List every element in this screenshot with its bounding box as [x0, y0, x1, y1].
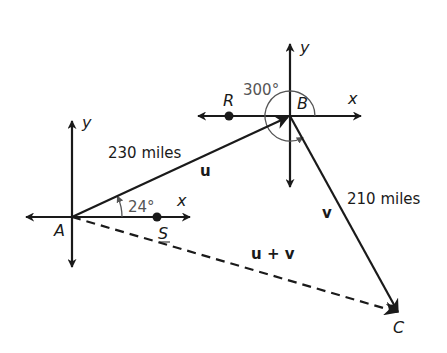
y-axis-A-label: y — [81, 113, 92, 132]
axes-at-B: y x — [198, 38, 361, 187]
x-axis-B-label: x — [347, 89, 358, 108]
point-R — [225, 112, 234, 121]
vector-v-label: v — [322, 204, 332, 222]
magnitude-v-label: 210 miles — [347, 190, 421, 208]
diagram-canvas: y x y x A B C R S 230 miles 210 miles u … — [0, 0, 447, 353]
vector-sum-label: u + v — [251, 245, 295, 263]
label-A: A — [53, 221, 65, 240]
vector-u-plus-v — [72, 217, 397, 312]
vector-v — [290, 116, 398, 312]
angle-arc-24 — [118, 197, 122, 217]
vector-diagram: y x y x A B C R S 230 miles 210 miles u … — [0, 0, 447, 353]
label-B: B — [297, 94, 308, 113]
label-C: C — [393, 318, 405, 337]
x-axis-A-label: x — [176, 191, 187, 210]
magnitude-u-label: 230 miles — [108, 144, 182, 162]
angle-300-label: 300° — [243, 81, 279, 99]
angle-24-label: 24° — [128, 198, 155, 216]
label-S: S — [158, 224, 168, 243]
vector-u-label: u — [200, 162, 211, 180]
y-axis-B-label: y — [299, 38, 310, 57]
label-R: R — [223, 91, 234, 110]
